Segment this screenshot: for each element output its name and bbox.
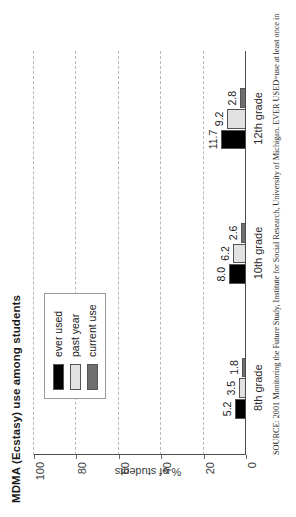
- legend-label: past year: [69, 314, 81, 357]
- legend-item[interactable]: past year: [69, 304, 81, 390]
- source-note: SOURCE: 2001 Monitoring the Future Study…: [272, 14, 281, 455]
- x-category-label: 12th grade: [252, 92, 264, 145]
- y-tick-mark: [161, 455, 162, 459]
- x-category-label: 10th grade: [252, 227, 264, 280]
- bar[interactable]: 11.7: [221, 130, 246, 150]
- bar[interactable]: 8.0: [229, 264, 246, 284]
- chart-title: MDMA (Ecstasy) use among students: [10, 295, 22, 503]
- bar-group: 11.79.22.812th grade: [34, 87, 246, 149]
- y-tick-mark: [76, 455, 77, 459]
- bar-value-label: 3.5: [225, 381, 237, 396]
- legend-swatch: [53, 364, 64, 390]
- y-axis-title: % of students: [115, 466, 182, 478]
- chart-canvas: MDMA (Ecstasy) use among students 020406…: [0, 0, 296, 517]
- legend-item[interactable]: ever used: [52, 304, 64, 390]
- y-tick-mark: [204, 455, 205, 459]
- y-tick-mark: [34, 455, 35, 459]
- bar-value-label: 2.8: [226, 91, 238, 106]
- legend-swatch: [70, 364, 81, 390]
- y-tick-mark: [119, 455, 120, 459]
- bar-group: 8.06.22.610th grade: [34, 222, 246, 284]
- bar-value-label: 8.0: [215, 267, 227, 282]
- bar-value-label: 6.2: [219, 246, 231, 261]
- legend-label: ever used: [52, 311, 64, 357]
- x-axis-line: [245, 51, 246, 455]
- bar-value-label: 9.2: [213, 112, 225, 127]
- bar[interactable]: 9.2: [227, 109, 247, 129]
- y-axis-line: [34, 454, 246, 455]
- rotated-chart-wrapper: MDMA (Ecstasy) use among students 020406…: [0, 0, 296, 517]
- bar-value-label: 11.7: [207, 130, 219, 150]
- y-tick-mark: [246, 455, 247, 459]
- legend-swatch: [87, 364, 98, 390]
- legend-item[interactable]: current use: [86, 304, 98, 390]
- bar-value-label: 1.8: [228, 360, 240, 375]
- x-category-label: 8th grade: [252, 364, 264, 410]
- bar-value-label: 5.2: [221, 402, 233, 417]
- chart-legend: ever usedpast yearcurrent use: [44, 293, 106, 399]
- legend-label: current use: [86, 304, 98, 357]
- bar-value-label: 2.6: [227, 226, 239, 241]
